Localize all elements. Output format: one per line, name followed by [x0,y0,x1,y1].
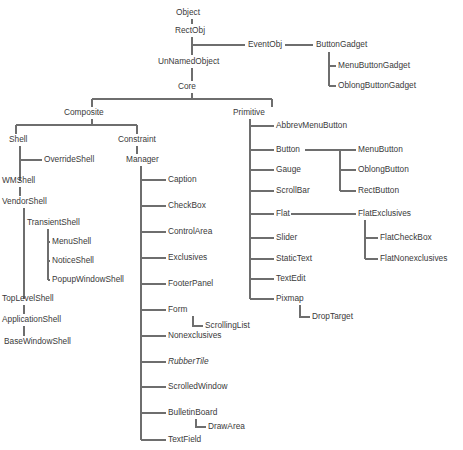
tree-node-basewindowshell[interactable]: BaseWindowShell [4,336,71,346]
tree-node-scrolledwindow[interactable]: ScrolledWindow [168,381,228,391]
tree-node-unnamedobject[interactable]: UnNamedObject [158,56,220,66]
tree-node-object[interactable]: Object [176,7,201,17]
tree-node-caption[interactable]: Caption [168,174,197,184]
tree-node-vendorshell[interactable]: VendorShell [2,196,47,206]
tree-node-wmshell[interactable]: WMShell [2,175,35,185]
tree-node-flat[interactable]: Flat [276,208,291,218]
tree-edge-pixmap-droptarget [300,305,310,317]
tree-node-menubutton[interactable]: MenuButton [358,144,403,154]
tree-node-statictext[interactable]: StaticText [276,253,313,263]
tree-node-rubbertile[interactable]: RubberTile [168,356,209,366]
tree-node-primitive[interactable]: Primitive [233,107,265,117]
tree-node-toplevelshell[interactable]: TopLevelShell [2,293,54,303]
tree-node-flatexclusives[interactable]: FlatExclusives [358,208,411,218]
tree-node-scrollinglist[interactable]: ScrollingList [205,320,250,330]
tree-node-bulletinboard[interactable]: BulletinBoard [168,407,218,417]
tree-edge-bulletin-drawarea [196,419,206,427]
tree-node-checkbox[interactable]: CheckBox [168,200,207,210]
class-hierarchy-diagram: ObjectRectObjEventObjButtonGadgetMenuBut… [0,0,463,450]
tree-edge-button-branch [305,150,340,191]
tree-node-rectobj[interactable]: RectObj [175,25,205,35]
tree-node-noticeshell[interactable]: NoticeShell [52,255,94,265]
tree-node-menubuttongadget[interactable]: MenuButtonGadget [338,60,411,70]
tree-node-scrollbar[interactable]: ScrollBar [276,185,310,195]
tree-node-transientshell[interactable]: TransientShell [27,217,80,227]
tree-node-rectbutton[interactable]: RectButton [358,185,399,195]
tree-node-buttongadget[interactable]: ButtonGadget [316,39,368,49]
tree-node-abbrevmenubutton[interactable]: AbbrevMenuButton [276,120,347,130]
tree-node-controlarea[interactable]: ControlArea [168,226,213,236]
tree-node-nonexclusives[interactable]: Nonexclusives [168,330,222,340]
tree-node-form[interactable]: Form [168,304,187,314]
tree-node-exclusives[interactable]: Exclusives [168,252,207,262]
tree-node-shell[interactable]: Shell [9,134,28,144]
class-tree-svg: ObjectRectObjEventObjButtonGadgetMenuBut… [0,0,463,450]
tree-node-manager[interactable]: Manager [126,154,159,164]
nodes-layer: ObjectRectObjEventObjButtonGadgetMenuBut… [2,7,447,444]
tree-node-menushell[interactable]: MenuShell [52,236,91,246]
tree-edge-composite-split [16,119,137,134]
tree-node-footerpanel[interactable]: FooterPanel [168,278,213,288]
tree-node-slider[interactable]: Slider [276,232,297,242]
tree-node-core[interactable]: Core [178,81,196,91]
tree-node-textedit[interactable]: TextEdit [276,273,306,283]
tree-node-flatcheckbox[interactable]: FlatCheckBox [380,232,432,242]
tree-edge-form-scrollinglist [193,316,203,326]
tree-node-composite[interactable]: Composite [64,107,104,117]
tree-node-applicationshell[interactable]: ApplicationShell [2,314,61,324]
tree-node-constraint[interactable]: Constraint [118,134,157,144]
tree-node-drawarea[interactable]: DrawArea [208,421,245,431]
tree-edge-core-split [92,93,272,107]
tree-node-oblongbutton[interactable]: OblongButton [358,164,409,174]
tree-node-flatnonexclusives[interactable]: FlatNonexclusives [380,253,447,263]
tree-node-oblongbuttongadget[interactable]: OblongButtonGadget [338,80,417,90]
tree-node-droptarget[interactable]: DropTarget [312,311,354,321]
tree-node-button[interactable]: Button [276,144,300,154]
tree-node-gauge[interactable]: Gauge [276,164,301,174]
tree-node-overrideshell[interactable]: OverrideShell [44,154,94,164]
tree-node-popupwindowshell[interactable]: PopupWindowShell [52,274,124,284]
tree-node-pixmap[interactable]: Pixmap [276,293,304,303]
tree-node-textfield[interactable]: TextField [168,434,202,444]
tree-node-eventobj[interactable]: EventObj [248,39,282,49]
